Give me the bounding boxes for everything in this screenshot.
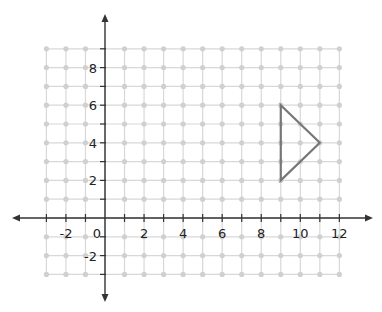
grid-dot (317, 234, 322, 239)
grid-dot (141, 84, 146, 89)
grid-dot (181, 140, 186, 145)
grid-dot (181, 178, 186, 183)
grid-dot (220, 65, 225, 70)
grid-dot (44, 178, 49, 183)
grid-dot (181, 65, 186, 70)
grid-dot (161, 159, 166, 164)
grid-dot (44, 140, 49, 145)
grid-dot (317, 103, 322, 108)
grid-dot (278, 253, 283, 258)
grid-dot (122, 121, 127, 126)
grid-dot (63, 103, 68, 108)
grid-dot (122, 46, 127, 51)
grid-dot (220, 197, 225, 202)
grid-dot (317, 178, 322, 183)
grid-dot (122, 253, 127, 258)
arrow-up-icon (102, 14, 109, 22)
grid-dot (298, 140, 303, 145)
grid-dot (161, 65, 166, 70)
grid-dot (122, 65, 127, 70)
grid-dot (278, 84, 283, 89)
grid-dot (83, 140, 88, 145)
grid-dot (161, 197, 166, 202)
x-tick-label: 4 (179, 226, 187, 241)
grid-dot (44, 84, 49, 89)
grid-dot (337, 46, 342, 51)
x-tick-label: -2 (59, 226, 72, 241)
grid-dot (63, 197, 68, 202)
grid-dot (337, 197, 342, 202)
grid-dot (278, 65, 283, 70)
arrow-right-icon (365, 215, 373, 222)
grid-dot (239, 65, 244, 70)
grid-dot (44, 121, 49, 126)
grid-dot (161, 121, 166, 126)
grid-dot (200, 103, 205, 108)
grid-dot (200, 84, 205, 89)
grid-dot (220, 272, 225, 277)
grid-dot (239, 121, 244, 126)
grid-dot (239, 234, 244, 239)
grid-dot (220, 159, 225, 164)
grid-dot (63, 84, 68, 89)
grid-dot (259, 197, 264, 202)
grid-dot (337, 103, 342, 108)
grid-dot (239, 253, 244, 258)
grid-dot (141, 65, 146, 70)
grid-dot (337, 140, 342, 145)
grid-dot (317, 121, 322, 126)
grid-dot (239, 84, 244, 89)
grid-dot (181, 159, 186, 164)
grid-dot (259, 103, 264, 108)
grid-dot (141, 178, 146, 183)
grid-dot (278, 234, 283, 239)
grid-dot (337, 253, 342, 258)
grid-dot (161, 140, 166, 145)
grid-dot (63, 46, 68, 51)
grid-dot (122, 234, 127, 239)
grid-dot (298, 46, 303, 51)
grid-dot (317, 197, 322, 202)
grid-dot (239, 272, 244, 277)
grid-dot (239, 140, 244, 145)
grid-dot (259, 46, 264, 51)
grid-dot (63, 253, 68, 258)
grid-dot (83, 65, 88, 70)
grid-dot (337, 178, 342, 183)
grid-dot (161, 253, 166, 258)
grid-dot (63, 272, 68, 277)
grid-dot (337, 84, 342, 89)
grid-dot (220, 46, 225, 51)
grid-dot (317, 253, 322, 258)
grid-dot (141, 253, 146, 258)
grid-dot (278, 197, 283, 202)
y-tick-label: -2 (84, 249, 97, 264)
grid-dot (259, 65, 264, 70)
grid-dot (122, 103, 127, 108)
grid-dot (278, 272, 283, 277)
grid-dot (200, 159, 205, 164)
grid-dot (161, 103, 166, 108)
grid-dot (200, 140, 205, 145)
x-tick-label: 2 (140, 226, 148, 241)
grid-dot (337, 272, 342, 277)
grid-dot (122, 84, 127, 89)
grid-dot (83, 84, 88, 89)
grid-dot (259, 84, 264, 89)
grid-dot (44, 234, 49, 239)
arrow-left-icon (12, 215, 20, 222)
grid-dot (200, 272, 205, 277)
grid-dot (220, 103, 225, 108)
grid-dot (83, 178, 88, 183)
grid-dot (337, 65, 342, 70)
grid-dot (337, 121, 342, 126)
grid-dot (161, 272, 166, 277)
grid-dot (278, 46, 283, 51)
grid-dot (63, 140, 68, 145)
grid-dot (141, 140, 146, 145)
grid-dot (44, 103, 49, 108)
grid-dot (83, 46, 88, 51)
grid-dot (83, 121, 88, 126)
grid-dot (259, 253, 264, 258)
grid-dot (259, 140, 264, 145)
